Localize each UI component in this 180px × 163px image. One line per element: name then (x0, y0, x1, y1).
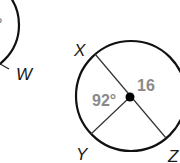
left-circle (0, 0, 19, 74)
left-partial-degree: ° (0, 16, 2, 33)
left-circle-group: ° W (0, 0, 34, 84)
point-label-y: Y (76, 145, 89, 163)
right-circle-group: X Y Z 92° 16 (73, 41, 180, 163)
angle-measure: 92° (92, 92, 116, 109)
geometry-figure: ° W X Y Z 92° 16 (0, 0, 180, 163)
center-point (126, 93, 135, 102)
point-label-w: W (16, 65, 34, 84)
point-label-x: X (73, 41, 86, 60)
point-label-z: Z (167, 147, 179, 163)
radius-measure: 16 (137, 77, 155, 94)
